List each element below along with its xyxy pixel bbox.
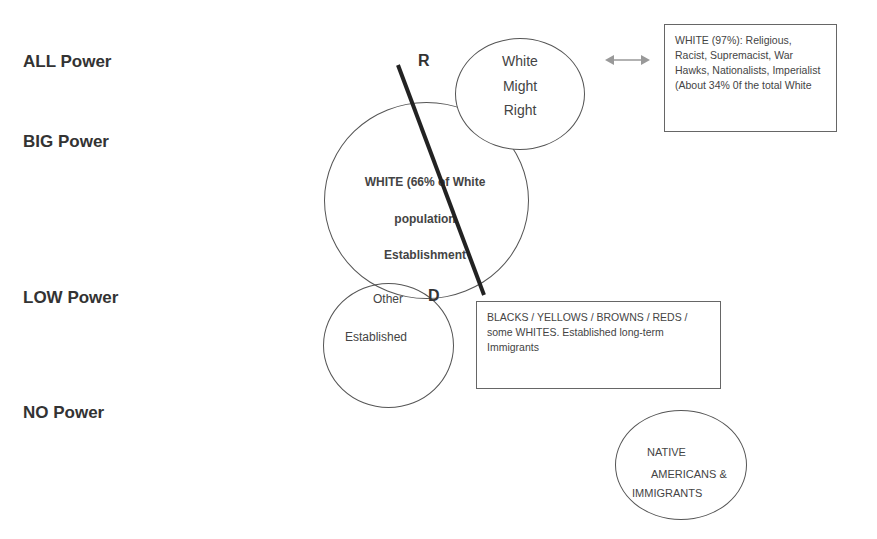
diagonal-divider-line [398, 65, 484, 295]
double-arrow-icon [605, 55, 650, 65]
connectors-layer [0, 0, 877, 539]
